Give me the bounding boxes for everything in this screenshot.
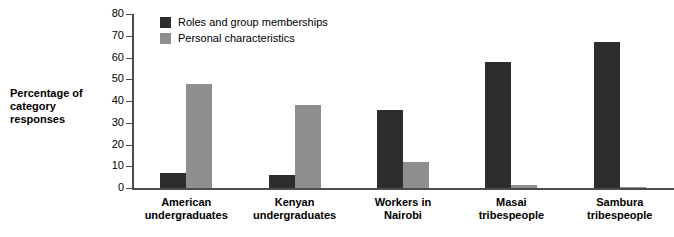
legend-item-personal: Personal characteristics: [160, 31, 328, 45]
bar-roles-0: [160, 173, 186, 188]
legend-label-personal: Personal characteristics: [178, 32, 295, 44]
category-label-2: Workers in Nairobi: [349, 196, 457, 222]
legend-item-roles: Roles and group memberships: [160, 15, 328, 29]
y-axis-title: Percentage of category responses: [10, 87, 105, 126]
bar-personal-2: [403, 162, 429, 188]
y-tick-label: 20: [112, 138, 124, 150]
y-axis-line: [132, 14, 134, 189]
bar-roles-4: [594, 42, 620, 188]
y-tick-label: 70: [112, 29, 124, 41]
y-tick-label: 30: [112, 116, 124, 128]
y-tick-label: 10: [112, 159, 124, 171]
y-tick-mark: [126, 14, 132, 15]
chart-legend: Roles and group memberships Personal cha…: [160, 15, 328, 47]
category-label-0: American undergraduates: [132, 196, 240, 222]
x-axis-line: [132, 188, 674, 190]
y-tick-mark: [126, 79, 132, 80]
bar-personal-0: [186, 84, 212, 188]
y-axis-title-line-1: Percentage of: [10, 87, 105, 100]
category-label-4: Sambura tribespeople: [566, 196, 674, 222]
y-tick-label: 50: [112, 72, 124, 84]
y-tick-label: 80: [112, 7, 124, 19]
y-tick-label: 0: [118, 181, 124, 193]
legend-swatch-icon-personal: [160, 33, 171, 44]
bar-roles-3: [485, 62, 511, 188]
y-tick-mark: [126, 145, 132, 146]
bar-personal-1: [295, 105, 321, 188]
bar-roles-1: [269, 175, 295, 188]
bar-roles-2: [377, 110, 403, 188]
category-label-3: Masai tribespeople: [457, 196, 565, 222]
legend-label-roles: Roles and group memberships: [178, 16, 328, 28]
y-tick-mark: [126, 36, 132, 37]
legend-swatch-icon-roles: [160, 17, 171, 28]
bar-chart-figure: Percentage of category responses 0102030…: [0, 0, 674, 237]
y-tick-label: 40: [112, 94, 124, 106]
bar-personal-4: [620, 187, 646, 188]
category-label-1: Kenyan undergraduates: [240, 196, 348, 222]
y-tick-mark: [126, 101, 132, 102]
y-tick-label: 60: [112, 51, 124, 63]
bar-personal-3: [511, 185, 537, 188]
y-axis-title-line-2: category responses: [10, 100, 105, 126]
y-tick-mark: [126, 123, 132, 124]
y-tick-mark: [126, 166, 132, 167]
y-tick-mark: [126, 188, 132, 189]
y-tick-mark: [126, 58, 132, 59]
